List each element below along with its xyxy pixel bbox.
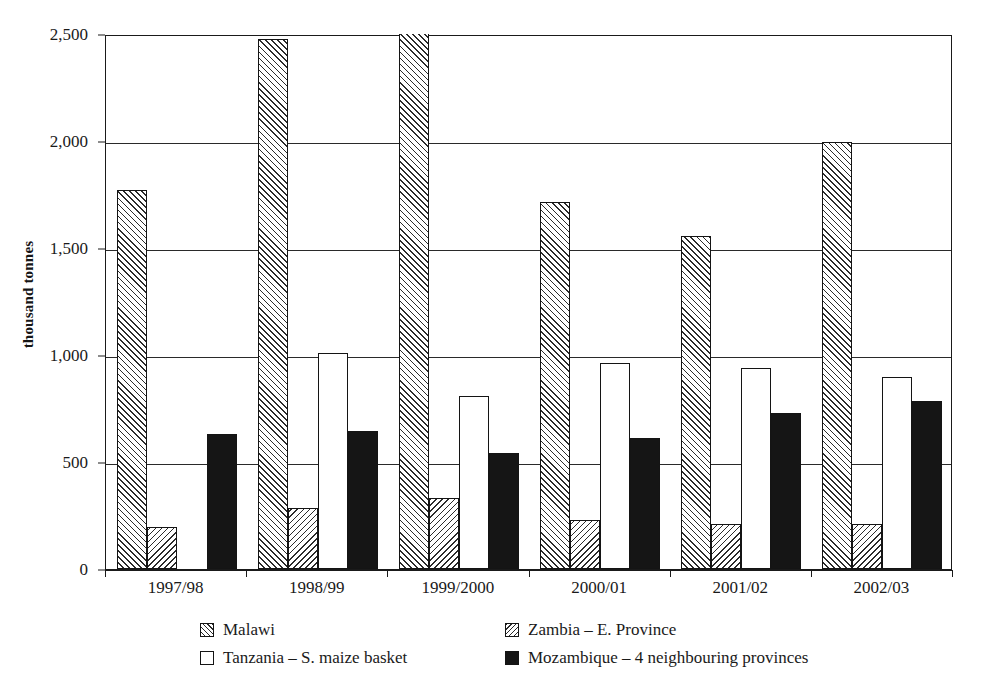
bar: [489, 453, 519, 569]
legend-label: Mozambique – 4 neighbouring provinces: [528, 648, 808, 668]
legend-swatch-icon: [200, 651, 214, 665]
y-tick-mark: [98, 35, 105, 36]
bar-chart: thousand tonnes 05001,0001,5002,0002,500…: [0, 0, 982, 698]
legend-label: Zambia – E. Province: [528, 620, 676, 640]
y-tick-label: 1,500: [8, 239, 88, 259]
y-tick-label: 2,000: [8, 132, 88, 152]
bar: [288, 508, 318, 569]
plot-area: [105, 35, 952, 570]
bar: [852, 524, 882, 569]
bar: [570, 520, 600, 569]
y-tick-label: 500: [8, 453, 88, 473]
legend-label: Tanzania – S. maize basket: [223, 648, 407, 668]
x-tick-mark: [246, 570, 247, 577]
x-tick-label: 2002/03: [791, 578, 971, 598]
bar: [681, 236, 711, 569]
y-tick-mark: [98, 142, 105, 143]
legend-swatch-icon: [505, 623, 519, 637]
legend-label: Malawi: [223, 620, 275, 640]
bars-layer: [106, 36, 951, 569]
bar: [117, 190, 147, 569]
x-tick-mark: [670, 570, 671, 577]
legend-item[interactable]: Mozambique – 4 neighbouring provinces: [505, 648, 808, 668]
bar: [630, 438, 660, 569]
x-tick-mark: [387, 570, 388, 577]
bar: [882, 377, 912, 569]
bar: [822, 142, 852, 569]
y-tick-mark: [98, 356, 105, 357]
legend-swatch-icon: [505, 651, 519, 665]
chart-legend: MalawiZambia – E. ProvinceTanzania – S. …: [0, 616, 982, 686]
bar: [258, 39, 288, 569]
legend-item[interactable]: Zambia – E. Province: [505, 620, 676, 640]
bar: [399, 34, 429, 569]
legend-swatch-icon: [200, 623, 214, 637]
y-tick-mark: [98, 463, 105, 464]
bar: [540, 202, 570, 569]
bar: [429, 498, 459, 569]
bar: [207, 434, 237, 569]
y-tick-mark: [98, 249, 105, 250]
bar: [459, 396, 489, 569]
legend-item[interactable]: Malawi: [200, 620, 275, 640]
bar: [600, 363, 630, 570]
y-tick-label: 2,500: [8, 25, 88, 45]
bar: [348, 431, 378, 569]
bar: [318, 353, 348, 569]
bar: [741, 368, 771, 569]
y-tick-label: 1,000: [8, 346, 88, 366]
x-tick-mark: [811, 570, 812, 577]
bar: [711, 524, 741, 569]
x-tick-mark: [952, 570, 953, 577]
bar: [912, 401, 942, 569]
bar: [147, 527, 177, 569]
bar: [771, 413, 801, 569]
x-tick-mark: [105, 570, 106, 577]
x-tick-mark: [529, 570, 530, 577]
y-tick-label: 0: [8, 560, 88, 580]
y-tick-mark: [98, 570, 105, 571]
legend-item[interactable]: Tanzania – S. maize basket: [200, 648, 407, 668]
